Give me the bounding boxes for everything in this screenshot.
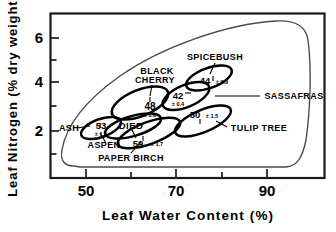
- y-tick-label-4: 4: [35, 73, 44, 90]
- x-tick-label-50: 50: [78, 182, 95, 199]
- callout-label-aspen: ASPEN: [87, 140, 120, 150]
- species-error-tulip-tree: ± 1.5: [206, 113, 218, 119]
- species-error-sassafras: ± 0.4: [172, 101, 185, 107]
- x-axis-title: Leaf Water Content (%): [102, 208, 274, 223]
- callout-label-paper-birch: PAPER BIRCH: [98, 153, 164, 163]
- species-error-aspen: ± 1.5: [95, 131, 107, 137]
- species-error-paper-birch: ± 1.7: [151, 141, 163, 147]
- species-value-spicebush: 44: [200, 75, 211, 86]
- species-value-tulip-tree: 50: [190, 109, 201, 120]
- species-error-spicebush: ± 0.9: [216, 79, 228, 85]
- species-value-black-cherry: 48: [144, 101, 156, 112]
- y-tick-label-2: 2: [35, 122, 43, 139]
- x-tick-label-70: 70: [168, 182, 185, 199]
- callout-label-died: DIED: [119, 120, 143, 131]
- callout-label-spicebush: SPICEBUSH: [187, 52, 243, 62]
- chart-canvas: 50 70 90 2 4 6 Leaf Water Content (%) Le…: [0, 0, 336, 232]
- figure-leaf-nitrogen-vs-water-content: 50 70 90 2 4 6 Leaf Water Content (%) Le…: [0, 0, 336, 232]
- callout-label-ash: ASH: [59, 123, 79, 133]
- callout-label-sassafras: SASSAFRAS: [264, 91, 323, 101]
- y-tick-label-6: 6: [35, 29, 43, 46]
- species-value-sassafras: 42: [173, 90, 184, 101]
- species-error-black-cherry: ± 0.8: [144, 112, 156, 118]
- callout-label-tulip-tree: TULIP TREE: [231, 123, 287, 133]
- y-axis-title: Leaf Nitrogen (% dry weight): [5, 0, 20, 197]
- species-value-paper-birch: 59: [133, 138, 144, 149]
- species-value-aspen: 53: [96, 120, 107, 131]
- x-tick-label-90: 90: [259, 182, 276, 199]
- callout-label-cherry: CHERRY: [135, 75, 175, 85]
